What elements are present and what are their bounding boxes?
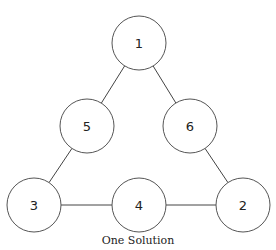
edge-1-6 (153, 66, 176, 103)
triangle-number-diagram: 156342 (0, 0, 276, 250)
edge-5-3 (49, 148, 72, 182)
node-label: 6 (186, 119, 194, 134)
node-label: 1 (135, 36, 143, 51)
node-4: 4 (112, 178, 166, 232)
edge-6-2 (205, 148, 228, 182)
node-3: 3 (7, 178, 61, 232)
node-6: 6 (163, 99, 217, 153)
node-label: 4 (135, 198, 143, 213)
node-label: 3 (30, 198, 38, 213)
node-5: 5 (60, 99, 114, 153)
diagram-caption: One Solution (0, 234, 276, 247)
node-label: 2 (239, 198, 247, 213)
node-label: 5 (83, 119, 91, 134)
node-2: 2 (216, 178, 270, 232)
node-1: 1 (112, 16, 166, 70)
nodes: 156342 (7, 16, 270, 232)
edge-1-5 (101, 66, 124, 103)
